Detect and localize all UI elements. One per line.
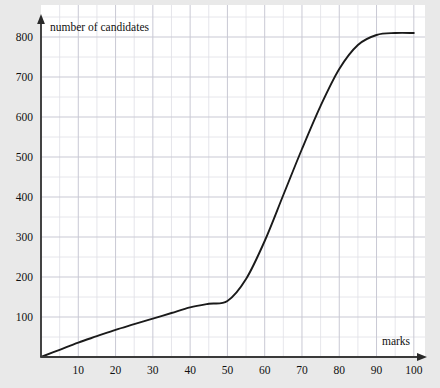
x-tick-label: 10 <box>73 364 85 376</box>
chart-canvas: 100200300400500600700800 102030405060708… <box>0 0 440 388</box>
x-tick-label: 80 <box>334 364 346 376</box>
y-tick-label: 700 <box>16 71 34 83</box>
x-tick-label: 20 <box>110 364 122 376</box>
y-tick-label: 300 <box>16 231 34 243</box>
x-tick-label: 40 <box>184 364 196 376</box>
y-tick-label: 100 <box>16 311 34 323</box>
cumulative-frequency-chart: 100200300400500600700800 102030405060708… <box>0 0 440 388</box>
y-tick-label: 600 <box>16 111 34 123</box>
plot-area-background <box>41 5 425 357</box>
x-tick-label: 50 <box>222 364 234 376</box>
x-tick-label: 100 <box>405 364 423 376</box>
x-axis-title: marks <box>382 335 411 347</box>
y-tick-label: 800 <box>16 31 34 43</box>
x-tick-label: 30 <box>147 364 159 376</box>
y-tick-label: 400 <box>16 191 34 203</box>
x-tick-label: 70 <box>296 364 308 376</box>
x-tick-label: 60 <box>259 364 271 376</box>
y-tick-label: 500 <box>16 151 34 163</box>
y-axis-title: number of candidates <box>50 21 150 33</box>
x-tick-label: 90 <box>371 364 383 376</box>
y-tick-label: 200 <box>16 271 34 283</box>
